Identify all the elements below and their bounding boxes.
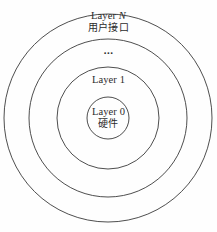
layer-0-ring	[87, 97, 129, 139]
layer-n-ring	[4, 14, 212, 222]
layered-system-diagram: Layer N 用户接口 ... Layer 1 Layer 0 硬件	[0, 0, 217, 232]
concentric-rings-svg	[0, 0, 217, 232]
layer-intermediate-ring	[29, 39, 187, 197]
layer-1-ring	[57, 67, 159, 169]
